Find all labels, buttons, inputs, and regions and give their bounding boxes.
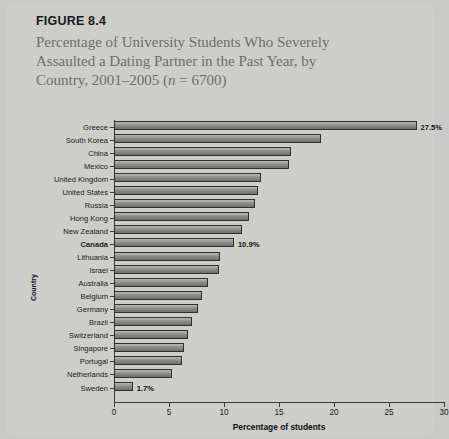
y-axis-label: Russia	[85, 200, 108, 209]
bar	[114, 382, 133, 391]
figure-panel: FIGURE 8.4 Percentage of University Stud…	[6, 4, 435, 435]
bar-row: Canada10.9%	[114, 237, 444, 250]
y-axis-label: Belgium	[81, 292, 108, 301]
figure-title-line-1: Percentage of University Students Who Se…	[36, 34, 329, 50]
y-axis-label: Australia	[78, 279, 108, 288]
y-axis-title: Country	[30, 274, 37, 301]
bar-row: Germany	[114, 303, 444, 316]
bar-row: Israel	[114, 264, 444, 277]
plot-area: Greece27.5%South KoreaChinaMexicoUnited …	[114, 120, 444, 400]
y-axis-label: Brazil	[89, 318, 108, 327]
bar-row: China	[114, 146, 444, 159]
figure-number: FIGURE 8.4	[36, 14, 426, 28]
x-axis-tick	[224, 402, 225, 407]
bar	[114, 278, 208, 287]
bar-row: Switzerland	[114, 329, 444, 342]
figure-title-line-2: Assaulted a Dating Partner in the Past Y…	[36, 53, 316, 69]
bar-row: Sweden1.7%	[114, 381, 444, 394]
bar-row: Greece27.5%	[114, 120, 444, 133]
bar	[114, 173, 261, 182]
bar	[114, 343, 184, 352]
bar	[114, 356, 182, 365]
x-axis-tick	[389, 402, 390, 407]
x-axis-tick-label: 30	[439, 408, 448, 417]
bar	[114, 291, 202, 300]
bar-value-label: 1.7%	[137, 383, 154, 392]
bar	[114, 317, 192, 326]
y-axis-label: Mexico	[84, 161, 108, 170]
x-axis-tick-label: 25	[384, 408, 393, 417]
y-axis-label: New Zealand	[63, 226, 108, 235]
bar-row: Portugal	[114, 355, 444, 368]
bar	[114, 225, 242, 234]
bar-row: Netherlands	[114, 368, 444, 381]
bar	[114, 121, 417, 130]
y-axis-label: Lithuania	[77, 253, 108, 262]
bar-row: Hong Kong	[114, 211, 444, 224]
bar	[114, 265, 219, 274]
bar	[114, 369, 172, 378]
bar-row: South Korea	[114, 133, 444, 146]
bar	[114, 186, 258, 195]
y-axis-label: Germany	[77, 305, 108, 314]
bar	[114, 330, 188, 339]
y-axis-label: United States	[62, 187, 108, 196]
x-axis-title: Percentage of students	[114, 422, 444, 432]
bar	[114, 147, 291, 156]
y-axis-label: Singapore	[73, 344, 108, 353]
figure-title-line-3-prefix: Country, 2001–2005 (	[36, 72, 168, 88]
y-axis-label: China	[88, 148, 108, 157]
bar-row: Lithuania	[114, 251, 444, 264]
y-axis-label: Israel	[89, 266, 108, 275]
x-axis-tick	[114, 402, 115, 407]
bar	[114, 199, 255, 208]
y-axis-label: South Korea	[66, 135, 108, 144]
bar-chart: Country Greece27.5%South KoreaChinaMexic…	[6, 116, 447, 416]
bar-row: United Kingdom	[114, 172, 444, 185]
bar-row: Brazil	[114, 316, 444, 329]
y-axis-label: Greece	[83, 122, 108, 131]
x-axis-tick-label: 20	[329, 408, 338, 417]
bar	[114, 212, 249, 221]
bar-row: United States	[114, 185, 444, 198]
y-axis-label: Netherlands	[67, 370, 108, 379]
figure-header: FIGURE 8.4 Percentage of University Stud…	[36, 14, 426, 90]
bar-row: Russia	[114, 198, 444, 211]
bar-row: Australia	[114, 277, 444, 290]
bar	[114, 252, 220, 261]
x-axis-tick-label: 0	[112, 408, 117, 417]
y-axis-label: Switzerland	[69, 331, 108, 340]
x-axis-tick-label: 15	[274, 408, 283, 417]
bar-row: Singapore	[114, 342, 444, 355]
figure-title-line-3-suffix: = 6700)	[175, 72, 226, 88]
figure-title: Percentage of University Students Who Se…	[36, 33, 426, 90]
y-axis-label: Sweden	[81, 383, 108, 392]
y-axis-label: Hong Kong	[70, 213, 108, 222]
bar	[114, 238, 234, 247]
bar	[114, 304, 198, 313]
y-axis-label: United Kingdom	[54, 174, 108, 183]
bar-value-label: 27.5%	[421, 122, 443, 131]
x-axis-tick	[169, 402, 170, 407]
x-axis-tick	[279, 402, 280, 407]
bar	[114, 134, 321, 143]
x-axis-tick-label: 10	[219, 408, 228, 417]
x-axis-tick-label: 5	[167, 408, 172, 417]
bar-row: Belgium	[114, 290, 444, 303]
bar	[114, 160, 289, 169]
x-axis-tick	[334, 402, 335, 407]
bar-value-label: 10.9%	[238, 239, 260, 248]
x-axis-tick	[444, 402, 445, 407]
bar-row: New Zealand	[114, 224, 444, 237]
y-axis-label: Canada	[81, 239, 108, 248]
y-axis-label: Portugal	[80, 357, 108, 366]
bar-row: Mexico	[114, 159, 444, 172]
